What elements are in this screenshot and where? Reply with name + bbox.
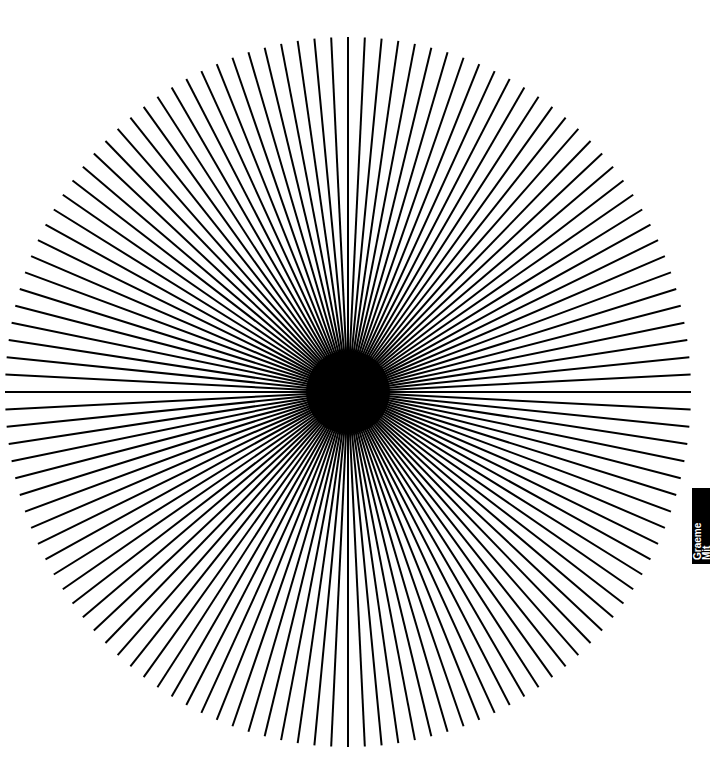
radial-starburst-figure xyxy=(0,0,710,764)
radial-line xyxy=(38,392,348,544)
radial-line xyxy=(348,209,642,392)
radial-line xyxy=(172,392,348,696)
radial-line xyxy=(348,392,524,696)
center-disc xyxy=(306,350,390,434)
radial-line xyxy=(54,209,348,392)
radial-line xyxy=(348,240,658,392)
radial-line xyxy=(348,357,689,392)
author-side-tab: Graeme Mit xyxy=(692,488,710,564)
radial-line xyxy=(314,392,348,745)
radial-line xyxy=(348,392,658,544)
radial-line xyxy=(348,88,524,392)
radial-line xyxy=(314,39,348,392)
radial-line xyxy=(348,392,382,745)
radial-line xyxy=(7,357,348,392)
radial-line xyxy=(348,392,642,575)
author-name-line2: Mit xyxy=(702,492,710,560)
radial-line xyxy=(38,240,348,392)
radial-line xyxy=(172,88,348,392)
radial-line xyxy=(7,392,348,427)
radial-line xyxy=(348,392,689,427)
radial-line xyxy=(348,39,382,392)
radial-line xyxy=(54,392,348,575)
